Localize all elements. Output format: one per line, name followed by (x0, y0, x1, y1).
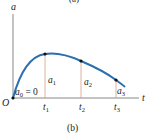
top-caption: (a) (69, 0, 79, 4)
a2-label: a2 (84, 77, 92, 88)
t1-label: t1 (43, 102, 49, 113)
origin-label: O (2, 97, 9, 108)
t3-label: t3 (114, 102, 120, 113)
acceleration-time-diagram: (a) a t O a0 = 0 a1 a2 a3 t1 t2 t3 (b) (0, 0, 150, 137)
y-axis-label: a (11, 1, 16, 12)
point-a3 (114, 78, 117, 81)
point-a1 (43, 52, 46, 55)
point-a2 (79, 59, 82, 62)
t2-label: t2 (79, 102, 85, 113)
x-axis-label: t (142, 92, 145, 103)
a3-label: a3 (117, 86, 125, 97)
figure-caption: (b) (67, 123, 78, 134)
a0-label: a0 = 0 (15, 87, 38, 98)
a1-label: a1 (48, 75, 56, 86)
